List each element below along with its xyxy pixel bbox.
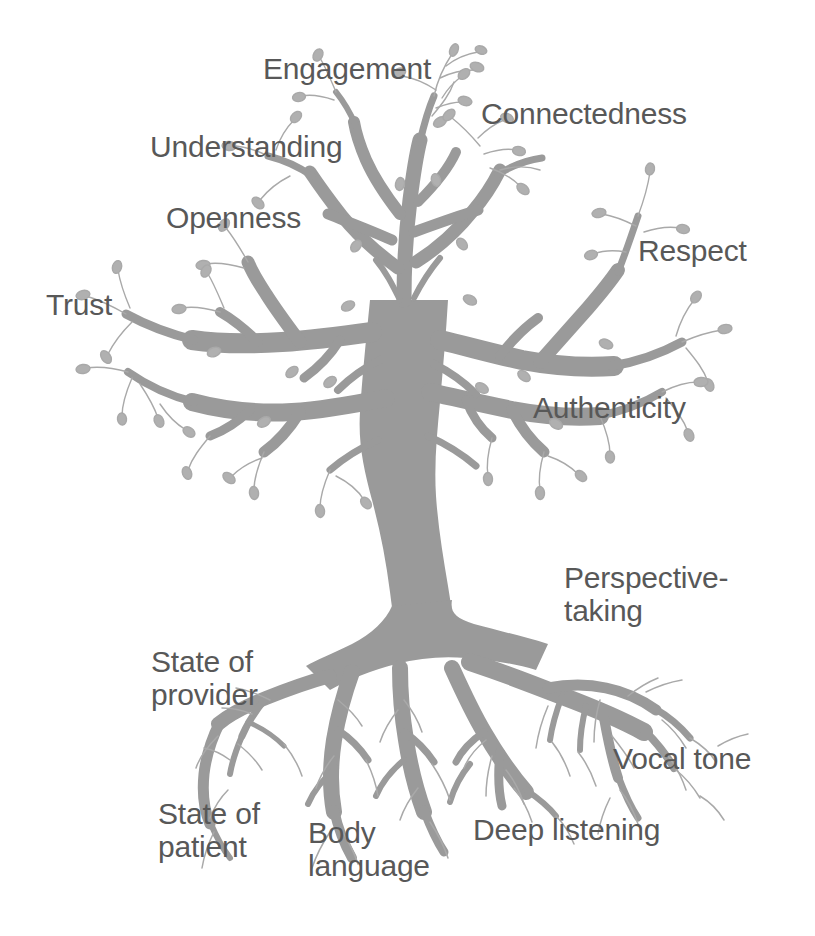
- root-left-inner-branch-a: [338, 730, 368, 760]
- root-right-inner-branch-b: [450, 764, 470, 802]
- canopy-label-engagement: Engagement: [263, 52, 431, 85]
- branch-apex: [404, 140, 420, 300]
- root-center-branch-b: [376, 760, 404, 796]
- root-label-deep-listening: Deep listening: [473, 813, 660, 846]
- root-right-inner-2: [499, 752, 502, 806]
- branch-apex-tip: [420, 96, 434, 142]
- root-left-branch-b: [230, 736, 242, 774]
- canopy-label-respect: Respect: [638, 234, 747, 267]
- root-label-state-of-patient: State of patient: [158, 797, 260, 863]
- trunk-shape: [360, 300, 455, 652]
- branch-mid-right-main: [440, 340, 614, 367]
- branch-mid-left-main: [192, 332, 372, 343]
- canopy-label-connectedness: Connectedness: [481, 97, 687, 130]
- root-label-vocal-tone: Vocal tone: [613, 742, 751, 775]
- branch-mid-right-main-tip: [612, 342, 682, 366]
- branch-mid-left-main-tip: [126, 314, 194, 340]
- branch-mid-right-up-tip: [618, 216, 638, 272]
- root-right-main: [470, 662, 644, 732]
- root-label-body-language: Body language: [308, 816, 430, 882]
- root-right-branch-b: [618, 776, 638, 818]
- branch-upper-left-3: [354, 122, 400, 214]
- root-label-state-of-provider: State of provider: [151, 645, 258, 711]
- canopy-label-authenticity: Authenticity: [533, 391, 686, 424]
- tree-illustration: [0, 0, 815, 936]
- branch-lower-left-main-tip: [128, 372, 194, 402]
- twig-cluster-engagement: [432, 66, 473, 129]
- canopy-label-understanding: Understanding: [150, 130, 343, 163]
- canopy-label-trust: Trust: [46, 288, 112, 321]
- twig-cluster-trust: [75, 260, 197, 440]
- canopy-label-openness: Openness: [166, 201, 301, 234]
- root-right-upper-tip: [654, 708, 690, 738]
- root-left-branch-c: [248, 722, 284, 746]
- branch-upper-left-3b: [336, 92, 356, 126]
- diagram-canvas: Engagement Connectedness Understanding O…: [0, 0, 815, 936]
- branch-mid-left-up: [248, 262, 300, 342]
- branch-lower-left-main: [192, 398, 386, 413]
- root-label-perspective-taking: Perspective- taking: [564, 561, 728, 627]
